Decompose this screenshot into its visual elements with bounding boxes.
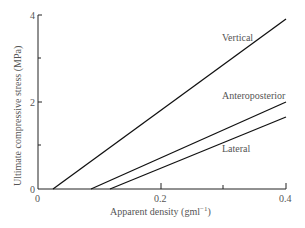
chart: 4 2 0 0 0.2 0.4 Apparent density (gml−1)… [0,0,305,228]
x-tick-label: 0 [35,193,40,204]
x-axis-label: Apparent density (gml−1) [110,205,211,218]
y-tick-label: 2 [30,97,35,108]
series-vertical [53,19,286,189]
y-tick-label: 4 [30,10,35,21]
label-lateral: Lateral [222,143,251,154]
x-tick-label: 0.2 [154,193,167,204]
label-vertical: Vertical [222,32,253,43]
y-axis-label: Ultimate compressive stress (MPa) [12,46,24,186]
label-anteroposterior: Anteroposterior [222,90,286,101]
x-tick-label: 0.4 [279,193,292,204]
series-anteroposterior [91,102,286,189]
